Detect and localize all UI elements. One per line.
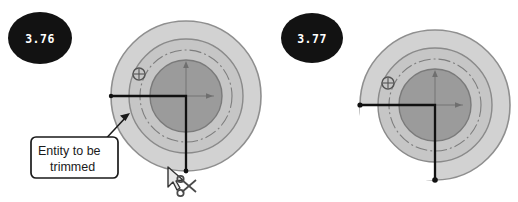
- entity-endpoint-left[interactable]: [357, 102, 362, 107]
- screenshot-root: Entity to be trimmed 3.76: [0, 0, 518, 202]
- figure-badge-3-76: 3.76: [8, 12, 72, 64]
- entity-endpoint-bottom[interactable]: [432, 177, 438, 183]
- figure-3-76-canvas: Entity to be trimmed 3.76: [0, 0, 259, 202]
- figure-badge-3-77: 3.77: [281, 13, 343, 63]
- callout-text-line1: Entity to be: [38, 144, 101, 158]
- coincident-constraint-icon[interactable]: [133, 68, 145, 80]
- badge-label: 3.76: [25, 32, 55, 46]
- entity-endpoint-left[interactable]: [109, 94, 113, 98]
- coincident-constraint-icon[interactable]: [382, 77, 394, 89]
- callout-text-line2: trimmed: [50, 160, 95, 174]
- figure-panel-before-trim: Entity to be trimmed 3.76: [0, 0, 259, 202]
- figure-panel-after-trim: 3.77: [259, 0, 518, 202]
- badge-label: 3.77: [297, 32, 327, 46]
- callout-box: Entity to be trimmed: [31, 137, 118, 178]
- entity-endpoint-bottom[interactable]: [184, 169, 189, 174]
- figure-3-77-canvas: 3.77: [259, 0, 518, 202]
